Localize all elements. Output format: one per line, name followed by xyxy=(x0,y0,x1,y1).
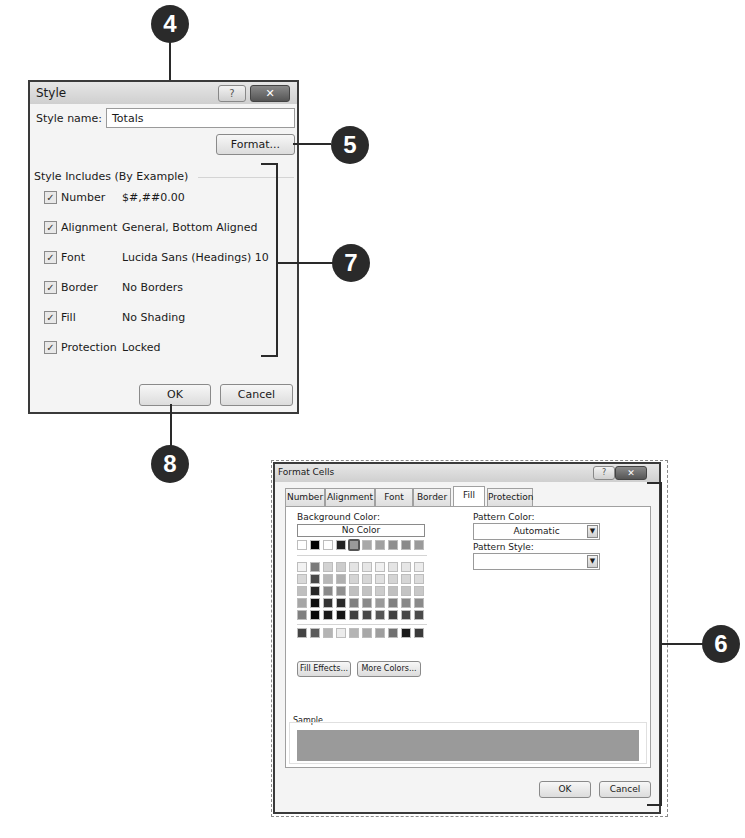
tab-alignment[interactable]: Alignment xyxy=(325,488,375,506)
color-swatch[interactable] xyxy=(401,574,411,584)
color-swatch[interactable] xyxy=(414,586,424,596)
protection-checkbox[interactable]: ✓ xyxy=(44,341,57,354)
color-swatch[interactable] xyxy=(388,610,398,620)
color-swatch[interactable] xyxy=(336,586,346,596)
fill-checkbox[interactable]: ✓ xyxy=(44,311,57,324)
color-swatch[interactable] xyxy=(375,562,385,572)
color-swatch[interactable] xyxy=(297,586,307,596)
pattern-color-label: Pattern Color: xyxy=(473,512,535,522)
color-swatch[interactable] xyxy=(336,540,346,550)
color-swatch[interactable] xyxy=(401,598,411,608)
font-checkbox[interactable]: ✓ xyxy=(44,251,57,264)
color-swatch[interactable] xyxy=(310,598,320,608)
color-swatch[interactable] xyxy=(388,628,398,638)
color-swatch[interactable] xyxy=(401,562,411,572)
color-swatch[interactable] xyxy=(362,628,372,638)
color-swatch[interactable] xyxy=(323,598,333,608)
color-swatch[interactable] xyxy=(375,610,385,620)
color-swatch[interactable] xyxy=(388,574,398,584)
color-swatch[interactable] xyxy=(297,574,307,584)
color-swatch[interactable] xyxy=(388,586,398,596)
color-swatch[interactable] xyxy=(388,540,398,550)
color-swatch[interactable] xyxy=(349,598,359,608)
color-swatch[interactable] xyxy=(362,574,372,584)
color-swatch[interactable] xyxy=(310,562,320,572)
color-swatch[interactable] xyxy=(401,586,411,596)
color-swatch[interactable] xyxy=(310,610,320,620)
dropdown-arrow-icon[interactable]: ▼ xyxy=(587,525,598,538)
more-colors-button[interactable]: More Colors... xyxy=(357,661,421,677)
color-swatch[interactable] xyxy=(323,574,333,584)
color-swatch[interactable] xyxy=(375,574,385,584)
color-swatch[interactable] xyxy=(297,562,307,572)
color-swatch[interactable] xyxy=(349,586,359,596)
format-cells-cancel-button[interactable]: Cancel xyxy=(599,781,651,798)
color-swatch[interactable] xyxy=(375,598,385,608)
color-swatch[interactable] xyxy=(375,540,385,550)
help-icon[interactable]: ? xyxy=(218,85,246,102)
tab-number[interactable]: Number xyxy=(285,488,325,506)
pattern-color-dropdown[interactable]: Automatic ▼ xyxy=(473,523,600,540)
color-swatch[interactable] xyxy=(414,598,424,608)
color-swatch[interactable] xyxy=(414,574,424,584)
color-swatch[interactable] xyxy=(362,540,372,550)
color-swatch[interactable] xyxy=(310,586,320,596)
color-swatch[interactable] xyxy=(336,574,346,584)
color-swatch[interactable] xyxy=(310,628,320,638)
cancel-button[interactable]: Cancel xyxy=(220,384,293,406)
color-swatch[interactable] xyxy=(388,562,398,572)
color-swatch[interactable] xyxy=(336,628,346,638)
color-swatch[interactable] xyxy=(362,562,372,572)
help-icon[interactable]: ? xyxy=(593,466,615,480)
border-checkbox[interactable]: ✓ xyxy=(44,281,57,294)
color-swatch[interactable] xyxy=(323,628,333,638)
color-swatch[interactable] xyxy=(310,540,320,550)
color-swatch[interactable] xyxy=(323,586,333,596)
color-swatch[interactable] xyxy=(401,540,411,550)
color-swatch[interactable] xyxy=(336,610,346,620)
color-swatch[interactable] xyxy=(323,610,333,620)
no-color-button[interactable]: No Color xyxy=(297,524,425,537)
color-swatch[interactable] xyxy=(323,562,333,572)
format-button[interactable]: Format... xyxy=(216,134,295,155)
color-swatch[interactable] xyxy=(336,598,346,608)
tab-font[interactable]: Font xyxy=(375,488,413,506)
tab-protection[interactable]: Protection xyxy=(487,488,533,506)
color-swatch[interactable] xyxy=(375,586,385,596)
dropdown-arrow-icon[interactable]: ▼ xyxy=(587,555,598,568)
color-swatch[interactable] xyxy=(349,610,359,620)
color-swatch[interactable] xyxy=(414,610,424,620)
color-swatch[interactable] xyxy=(348,539,360,551)
style-name-field[interactable]: Totals xyxy=(106,108,295,128)
color-swatch[interactable] xyxy=(323,540,333,550)
ok-button[interactable]: OK xyxy=(139,384,211,406)
color-swatch[interactable] xyxy=(297,540,307,550)
color-swatch[interactable] xyxy=(297,610,307,620)
color-swatch[interactable] xyxy=(362,586,372,596)
alignment-checkbox[interactable]: ✓ xyxy=(44,221,57,234)
color-swatch[interactable] xyxy=(401,610,411,620)
color-swatch[interactable] xyxy=(297,628,307,638)
color-swatch[interactable] xyxy=(388,598,398,608)
color-swatch[interactable] xyxy=(310,574,320,584)
pattern-style-dropdown[interactable]: ▼ xyxy=(473,553,600,570)
color-swatch[interactable] xyxy=(414,540,424,550)
format-cells-ok-button[interactable]: OK xyxy=(539,781,591,798)
close-icon[interactable]: ✕ xyxy=(250,85,290,102)
fill-effects-button[interactable]: Fill Effects... xyxy=(297,661,351,677)
number-checkbox[interactable]: ✓ xyxy=(44,191,57,204)
color-swatch[interactable] xyxy=(349,628,359,638)
color-swatch[interactable] xyxy=(414,562,424,572)
tab-border[interactable]: Border xyxy=(413,488,451,506)
color-swatch[interactable] xyxy=(297,598,307,608)
tab-fill[interactable]: Fill xyxy=(453,486,485,506)
color-swatch[interactable] xyxy=(336,562,346,572)
color-swatch[interactable] xyxy=(362,598,372,608)
color-swatch[interactable] xyxy=(362,610,372,620)
color-swatch[interactable] xyxy=(349,562,359,572)
color-swatch[interactable] xyxy=(349,574,359,584)
color-swatch[interactable] xyxy=(401,628,411,638)
color-swatch[interactable] xyxy=(414,628,424,638)
color-swatch[interactable] xyxy=(375,628,385,638)
close-icon[interactable]: ✕ xyxy=(615,466,647,480)
